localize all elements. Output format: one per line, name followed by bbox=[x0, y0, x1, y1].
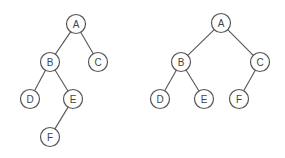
node-label: E bbox=[201, 94, 208, 105]
node-A: A bbox=[212, 14, 231, 33]
node-label: E bbox=[70, 94, 77, 105]
node-F: F bbox=[41, 128, 60, 147]
node-B: B bbox=[172, 53, 191, 72]
node-label: C bbox=[94, 57, 101, 68]
edge-A-B bbox=[188, 30, 214, 56]
node-F: F bbox=[230, 90, 249, 109]
edge-B-D bbox=[35, 70, 46, 90]
node-label: D bbox=[156, 94, 163, 105]
node-C: C bbox=[89, 53, 108, 72]
edge-A-C bbox=[228, 30, 254, 56]
node-D: D bbox=[151, 90, 170, 109]
right-tree: ABCDEF bbox=[151, 14, 270, 109]
node-label: A bbox=[73, 19, 80, 30]
node-label: F bbox=[236, 94, 242, 105]
edge-A-C bbox=[81, 32, 93, 54]
node-B: B bbox=[41, 53, 60, 72]
edge-B-D bbox=[165, 70, 177, 90]
edge-E-F bbox=[55, 107, 68, 129]
edge-B-E bbox=[55, 70, 68, 91]
left-tree: ABCDEF bbox=[21, 15, 108, 147]
binary-trees-diagram: ABCDEF ABCDEF bbox=[0, 0, 285, 158]
node-label: B bbox=[178, 57, 185, 68]
node-label: D bbox=[26, 94, 33, 105]
node-label: C bbox=[256, 57, 263, 68]
edge-B-E bbox=[186, 70, 199, 91]
node-A: A bbox=[67, 15, 86, 34]
node-C: C bbox=[251, 53, 270, 72]
node-label: B bbox=[47, 57, 54, 68]
edge-A-B bbox=[55, 32, 70, 54]
node-D: D bbox=[21, 90, 40, 109]
edge-C-F bbox=[244, 70, 256, 90]
node-E: E bbox=[64, 90, 83, 109]
node-E: E bbox=[195, 90, 214, 109]
node-label: F bbox=[47, 132, 53, 143]
node-label: A bbox=[218, 18, 225, 29]
